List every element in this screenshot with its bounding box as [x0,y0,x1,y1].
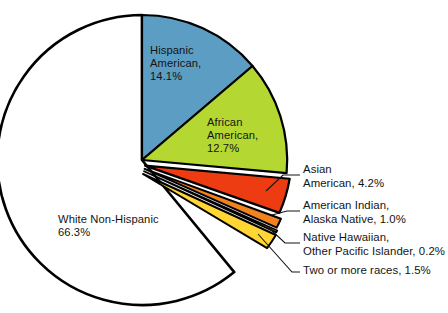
callout-label-american-indian-alaska-native: American Indian, Alaska Native, 1.0% [303,199,406,226]
callout-label-line-2: American, 4.2% [303,177,384,189]
callout-label-line-2: Other Pacific Islander, 0.2% [303,245,445,257]
callout-label-asian-american: Asian American, 4.2% [303,163,384,190]
callout-label-line-1: Two or more races, 1.5% [303,264,431,276]
callout-label-two-or-more-races: Two or more races, 1.5% [303,264,431,278]
pie-chart-figure: Hispanic American, 14.1% African America… [0,0,448,313]
callout-label-native-hawaiian-other-pacific-islander: Native Hawaiian, Other Pacific Islander,… [303,231,445,258]
callout-label-line-1: Asian [303,163,332,175]
callout-label-line-1: American Indian, [303,199,389,211]
callout-label-line-2: Alaska Native, 1.0% [303,213,406,225]
callout-label-line-1: Native Hawaiian, [303,231,389,243]
